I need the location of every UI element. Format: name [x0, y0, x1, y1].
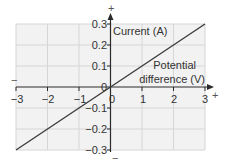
svg-text:−3: −3 [11, 93, 24, 105]
x-plus-sign: + [212, 89, 218, 101]
svg-text:1: 1 [140, 93, 146, 105]
y-axis-title: Current (A) [113, 25, 167, 37]
y-axis-arrow-icon [108, 13, 114, 20]
svg-text:−2: −2 [42, 93, 55, 105]
svg-text:−0.2: −0.2 [85, 123, 107, 135]
x-minus-sign: − [11, 74, 17, 86]
x-axis-title-line1: Potential [153, 59, 196, 71]
svg-text:0.1: 0.1 [92, 60, 107, 72]
svg-text:0: 0 [101, 81, 107, 93]
svg-text:0.3: 0.3 [92, 18, 107, 30]
x-axis-title-line2: difference (V) [139, 73, 205, 85]
svg-text:−0.1: −0.1 [85, 102, 107, 114]
iv-chart: −3 −2 −1 0 1 2 3 0.3 0.2 0.1 0 −0.1 −0.2… [0, 0, 228, 165]
svg-text:−0.3: −0.3 [85, 144, 107, 156]
svg-text:0.2: 0.2 [92, 39, 107, 51]
y-plus-sign: + [108, 2, 114, 14]
svg-text:2: 2 [171, 93, 177, 105]
y-minus-sign: − [112, 152, 118, 164]
svg-text:0: 0 [109, 93, 115, 105]
svg-text:3: 3 [202, 93, 208, 105]
